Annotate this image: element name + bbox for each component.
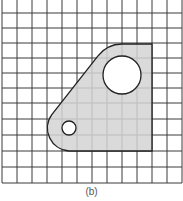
- figure-caption: (b): [0, 186, 183, 197]
- grid-figure: [0, 0, 183, 201]
- small-hole: [62, 121, 76, 135]
- plate-shape: [47, 44, 152, 151]
- large-hole: [103, 56, 141, 94]
